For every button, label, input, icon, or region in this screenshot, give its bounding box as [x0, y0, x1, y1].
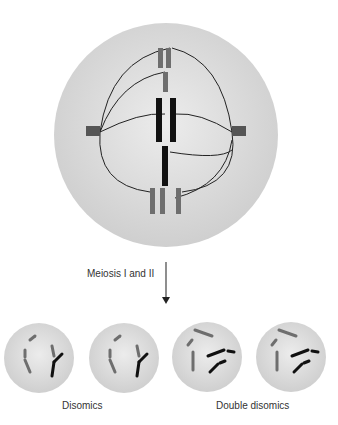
group-label-double-disomics: Double disomics — [216, 400, 289, 411]
centrosome-right — [232, 126, 246, 136]
parent-cell — [54, 23, 278, 247]
daughter-cells — [4, 322, 326, 393]
centrosome-left — [86, 126, 100, 136]
group-label-disomics: Disomics — [62, 400, 103, 411]
meiosis-diagram — [0, 0, 338, 425]
process-label: Meiosis I and II — [87, 268, 154, 279]
